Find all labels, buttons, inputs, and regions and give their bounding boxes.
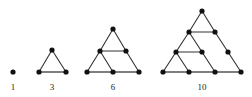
triangle-edge	[202, 11, 215, 32]
dot-node	[173, 49, 178, 54]
triangle-edge	[126, 51, 139, 72]
triangle-edge	[39, 50, 52, 72]
triangle-edge	[189, 11, 202, 32]
dot-node	[123, 48, 128, 53]
triangle-edge	[189, 32, 202, 52]
dot-node	[225, 49, 230, 54]
figure-count-label: 3	[50, 82, 55, 92]
triangle-edge	[215, 32, 228, 52]
figure-count-label: 10	[198, 82, 207, 92]
triangle-edge	[87, 51, 100, 72]
triangle-diagram-canvas	[0, 0, 252, 97]
dot-node	[110, 26, 115, 31]
triangular-numbers-figure: 13610	[0, 0, 252, 97]
dot-node	[84, 69, 89, 74]
dot-node	[63, 69, 68, 74]
dot-node	[160, 69, 165, 74]
triangle-edge	[176, 52, 189, 72]
figure-count-label: 1	[11, 82, 16, 92]
triangle-edge	[176, 32, 189, 52]
triangle-edge	[228, 52, 241, 72]
triangle-edge	[100, 51, 113, 72]
dot-node	[186, 69, 191, 74]
dot-node	[97, 48, 102, 53]
dot-node	[136, 69, 141, 74]
figure-count-label: 6	[111, 82, 116, 92]
edges-layer	[39, 11, 241, 72]
dot-node	[49, 47, 54, 52]
dot-node	[212, 29, 217, 34]
dot-node	[110, 69, 115, 74]
dot-node	[186, 29, 191, 34]
dot-node	[238, 69, 243, 74]
triangle-edge	[113, 29, 126, 51]
dot-node	[36, 69, 41, 74]
dot-node	[10, 69, 15, 74]
triangle-edge	[52, 50, 66, 72]
triangle-edge	[202, 52, 215, 72]
dots-layer	[10, 8, 243, 74]
dot-node	[199, 49, 204, 54]
dot-node	[212, 69, 217, 74]
dot-node	[199, 8, 204, 13]
triangle-edge	[163, 52, 176, 72]
triangle-edge	[100, 29, 113, 51]
